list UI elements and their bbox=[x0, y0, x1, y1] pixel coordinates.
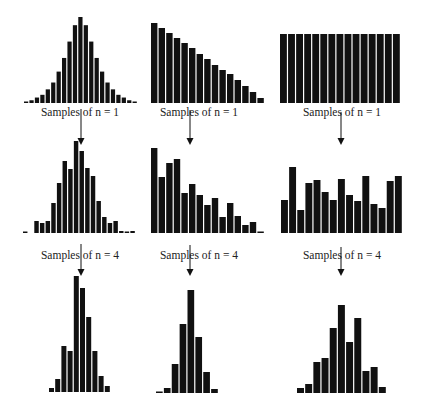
histogram-bar bbox=[353, 34, 360, 103]
histogram-bar bbox=[172, 364, 179, 393]
histogram-bar bbox=[99, 376, 104, 392]
histogram-bar bbox=[227, 203, 233, 233]
histogram-bar bbox=[51, 203, 55, 233]
histogram-bar bbox=[188, 290, 195, 393]
histogram-bar bbox=[57, 183, 61, 233]
histogram-bar bbox=[89, 42, 93, 103]
histogram-bar bbox=[338, 305, 345, 393]
sample-size-label: Samples of n = 1 bbox=[160, 106, 238, 119]
histogram-bar bbox=[227, 74, 233, 103]
histogram-bar bbox=[34, 221, 38, 233]
histogram-bar bbox=[305, 384, 312, 393]
histogram-bar bbox=[119, 231, 123, 233]
histogram-bar bbox=[74, 141, 78, 233]
histogram-r0-c2 bbox=[280, 34, 400, 103]
histogram-bar bbox=[377, 34, 384, 103]
histogram-bar bbox=[29, 100, 33, 103]
histogram-bar bbox=[313, 362, 320, 393]
histogram-bar bbox=[74, 276, 79, 392]
histogram-bar bbox=[195, 337, 202, 393]
histogram-bar bbox=[23, 232, 27, 234]
histogram-r1-c1 bbox=[151, 148, 264, 233]
arrow-down-icon bbox=[338, 269, 345, 276]
histogram-bar bbox=[105, 386, 110, 392]
histogram-r1-c2 bbox=[281, 167, 402, 233]
histogram-bar bbox=[362, 371, 369, 393]
histogram-bar bbox=[345, 34, 352, 103]
sample-arrow-annotation: Samples of n = 1 bbox=[41, 106, 119, 145]
histogram-bar bbox=[212, 198, 218, 233]
histogram-bar bbox=[46, 89, 50, 103]
histogram-bar bbox=[242, 86, 248, 103]
histogram-bar bbox=[166, 33, 172, 103]
sampling-distribution-figure: Samples of n = 1Samples of n = 1Samples … bbox=[0, 0, 422, 418]
histogram-bar bbox=[257, 98, 263, 103]
histogram-bar bbox=[204, 59, 210, 103]
histogram-bar bbox=[257, 232, 263, 234]
histogram-bar bbox=[204, 205, 210, 233]
histogram-bar bbox=[219, 70, 225, 103]
histogram-bar bbox=[49, 388, 54, 392]
sample-arrow-annotation: Samples of n = 4 bbox=[303, 247, 381, 276]
histogram-bar bbox=[78, 17, 82, 103]
histogram-bar bbox=[395, 176, 402, 233]
sample-size-label: Samples of n = 1 bbox=[41, 106, 119, 119]
histogram-bar bbox=[111, 89, 115, 103]
histogram-bar bbox=[314, 180, 321, 233]
histogram-bar bbox=[393, 34, 400, 103]
histogram-bar bbox=[197, 195, 203, 233]
sample-size-label: Samples of n = 4 bbox=[160, 249, 238, 262]
histogram-bar bbox=[379, 387, 386, 393]
histogram-bar bbox=[197, 54, 203, 103]
histogram-bar bbox=[100, 72, 104, 103]
histogram-bar bbox=[181, 193, 187, 233]
histogram-bar bbox=[113, 221, 117, 233]
histogram-bar bbox=[362, 176, 369, 233]
sample-arrow-annotation: Samples of n = 1 bbox=[303, 106, 381, 145]
histogram-bar bbox=[166, 163, 172, 233]
histogram-bar bbox=[250, 222, 256, 233]
histogram-bar bbox=[330, 200, 337, 233]
arrow-down-icon bbox=[187, 138, 194, 145]
arrow-down-icon bbox=[187, 269, 194, 276]
histogram-bar bbox=[354, 201, 361, 233]
histogram-bar bbox=[336, 34, 343, 103]
histogram-bar bbox=[80, 151, 84, 233]
histogram-grid: Samples of n = 1Samples of n = 1Samples … bbox=[0, 0, 422, 418]
histogram-bar bbox=[385, 34, 392, 103]
histogram-bar bbox=[125, 232, 129, 234]
histogram-bar bbox=[159, 28, 165, 103]
histogram-bar bbox=[35, 98, 39, 103]
histogram-bar bbox=[80, 288, 85, 392]
histogram-bar bbox=[24, 102, 28, 104]
histogram-bar bbox=[346, 195, 353, 233]
sample-arrow-annotation: Samples of n = 1 bbox=[160, 106, 238, 145]
sample-arrow-annotation: Samples of n = 4 bbox=[41, 244, 119, 276]
sample-size-label: Samples of n = 4 bbox=[41, 249, 119, 262]
histogram-bar bbox=[371, 367, 378, 393]
histogram-bar bbox=[61, 346, 66, 392]
histogram-bar bbox=[46, 221, 50, 233]
histogram-bar bbox=[280, 34, 287, 103]
histogram-bar bbox=[297, 388, 304, 393]
histogram-bar bbox=[68, 351, 73, 392]
histogram-bar bbox=[40, 95, 44, 103]
histogram-bar bbox=[127, 100, 131, 103]
histogram-bar bbox=[304, 34, 311, 103]
histogram-bar bbox=[330, 328, 337, 393]
histogram-bar bbox=[361, 34, 368, 103]
histogram-bar bbox=[151, 148, 157, 233]
histogram-bar bbox=[86, 317, 91, 392]
histogram-bar bbox=[133, 102, 137, 104]
histogram-bar bbox=[189, 48, 195, 103]
sample-size-label: Samples of n = 1 bbox=[303, 106, 381, 119]
histogram-bar bbox=[102, 217, 106, 233]
histogram-bar bbox=[130, 231, 134, 233]
histogram-bar bbox=[312, 34, 319, 103]
histogram-bar bbox=[180, 324, 187, 393]
histogram-bar bbox=[92, 351, 97, 392]
histogram-bar bbox=[370, 204, 377, 233]
histogram-bar bbox=[68, 169, 72, 233]
histogram-bar bbox=[305, 183, 312, 233]
histogram-bar bbox=[322, 358, 329, 393]
